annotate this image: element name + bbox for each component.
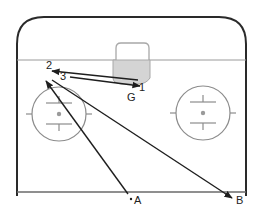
label-point-b: B xyxy=(236,194,243,206)
label-player-1: 1 xyxy=(139,81,145,93)
label-player-2: 2 xyxy=(46,59,52,71)
label-point-a: A xyxy=(134,194,142,206)
hockey-drill-diagram: 2 3 1 G A B xyxy=(0,0,263,218)
net-icon xyxy=(116,43,149,60)
label-player-3: 3 xyxy=(60,70,66,82)
pass-arrow-to-b xyxy=(52,80,232,198)
label-goalie: G xyxy=(127,91,136,103)
faceoff-circle-right xyxy=(170,86,236,140)
faceoff-circle-left xyxy=(26,87,92,141)
skate-arrow-a-to-2 xyxy=(46,81,128,194)
faceoff-dot-left xyxy=(57,112,61,116)
faceoff-dot-right xyxy=(201,111,205,115)
point-a-dot xyxy=(130,198,132,200)
